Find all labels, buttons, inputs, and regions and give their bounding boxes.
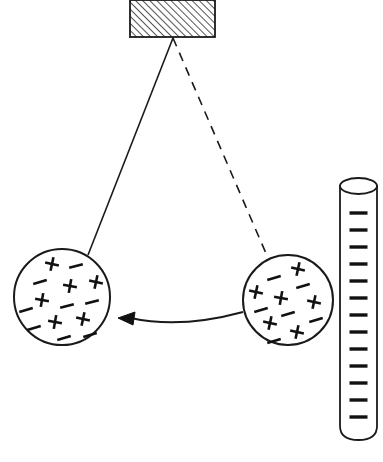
force-arrow-shaft bbox=[131, 312, 243, 322]
support-block-hatching bbox=[130, 0, 215, 37]
charged-pendulum-diagram bbox=[0, 0, 383, 462]
attraction-force-arrow bbox=[118, 312, 243, 325]
sphere-rest-right-outline bbox=[243, 255, 333, 345]
charged-spheres bbox=[14, 249, 333, 345]
negatively-charged-rod bbox=[340, 178, 377, 440]
force-arrow-head bbox=[118, 312, 135, 325]
sphere-displaced-left bbox=[14, 249, 110, 345]
rod-body bbox=[340, 186, 377, 440]
ceiling-support-block bbox=[130, 0, 215, 37]
physics-diagram-canvas bbox=[0, 0, 383, 462]
string-rest-position bbox=[173, 38, 268, 258]
string-displaced-position bbox=[88, 38, 173, 255]
sphere-rest-right bbox=[243, 255, 333, 345]
rod-top-ellipse bbox=[340, 178, 377, 194]
pendulum-strings bbox=[88, 38, 268, 258]
